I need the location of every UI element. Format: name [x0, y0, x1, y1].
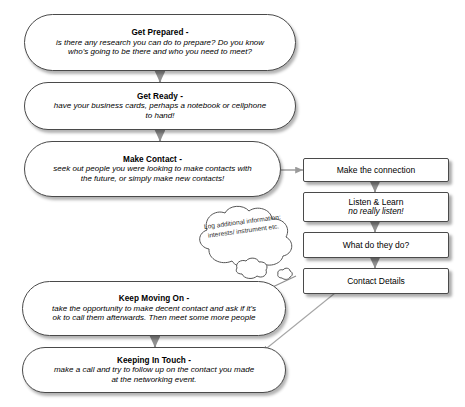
- node-keep-moving-on-title: Keep Moving On -: [119, 294, 189, 304]
- node-contact-details[interactable]: Contact Details: [303, 268, 449, 294]
- node-get-prepared-title: Get Prepared -: [131, 28, 188, 38]
- node-keeping-in-touch[interactable]: Keeping In Touch - make a call and try t…: [22, 347, 286, 393]
- node-make-contact-body: seek out people you were looking to make…: [51, 164, 254, 183]
- node-get-ready-title: Get Ready -: [137, 92, 183, 102]
- node-get-ready-body: have your business cards, perhaps a note…: [51, 101, 269, 120]
- node-make-the-connection-label: Make the connection: [337, 165, 415, 175]
- node-contact-details-label: Contact Details: [347, 276, 405, 286]
- node-keep-moving-on-body: take the opportunity to make decent cont…: [49, 304, 259, 323]
- node-listen-and-learn-sublabel: no really listen!: [348, 207, 403, 217]
- cloud-icon: [183, 202, 305, 288]
- node-what-do-they-do[interactable]: What do they do?: [303, 232, 449, 258]
- node-make-contact-title: Make Contact -: [123, 155, 182, 165]
- callout-log-additional-information[interactable]: Log additional information: interests/ i…: [183, 202, 305, 288]
- node-keeping-in-touch-body: make a call and try to follow up on the …: [49, 365, 259, 384]
- bottom-cropped-caption-artifact: [8, 399, 228, 407]
- node-get-ready[interactable]: Get Ready - have your business cards, pe…: [24, 82, 296, 130]
- top-cropped-title-artifact: [150, 0, 360, 2]
- node-keeping-in-touch-title: Keeping In Touch -: [117, 356, 191, 366]
- node-listen-and-learn[interactable]: Listen & Learn no really listen!: [303, 192, 449, 222]
- node-make-the-connection[interactable]: Make the connection: [303, 158, 449, 182]
- node-get-prepared-body: is there any research you can do to prep…: [51, 38, 269, 57]
- node-what-do-they-do-label: What do they do?: [343, 240, 410, 250]
- flowchart-canvas: Get Prepared - is there any research you…: [0, 0, 465, 407]
- node-get-prepared[interactable]: Get Prepared - is there any research you…: [24, 14, 296, 71]
- node-make-contact[interactable]: Make Contact - seek out people you were …: [24, 141, 281, 197]
- node-keep-moving-on[interactable]: Keep Moving On - take the opportunity to…: [22, 281, 286, 336]
